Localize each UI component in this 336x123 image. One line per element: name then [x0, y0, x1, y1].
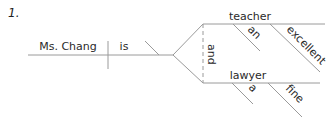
fork-lower: [173, 55, 203, 83]
modifier-fine: fine: [283, 82, 307, 106]
modifier-excellent: excellent: [284, 23, 329, 68]
exercise-number: 1.: [8, 6, 19, 20]
nominative-top: teacher: [229, 10, 272, 23]
fork-upper: [173, 24, 203, 55]
subject-word: Ms. Chang: [39, 40, 97, 53]
conjunction-word: and: [205, 44, 218, 65]
predicate-nominative-slash: [145, 41, 159, 55]
verb-word: is: [120, 40, 129, 53]
nominative-bottom: lawyer: [230, 69, 267, 82]
sentence-diagram: 1. Ms. Chang is and teacher an excellent…: [0, 0, 336, 123]
